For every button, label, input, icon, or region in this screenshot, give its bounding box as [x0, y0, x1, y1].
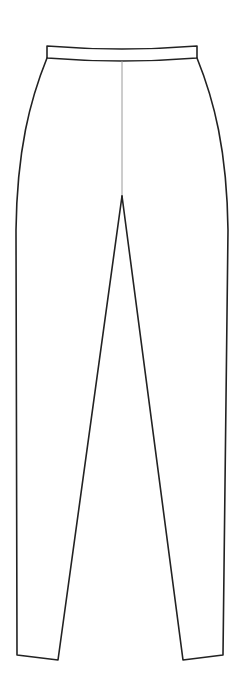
left-leg: [16, 58, 122, 660]
right-leg: [122, 58, 228, 660]
pants-illustration: [0, 0, 240, 689]
pants-flat-drawing: Technical flat sketch of fitted pants / …: [0, 0, 240, 689]
waistband: [47, 46, 197, 61]
